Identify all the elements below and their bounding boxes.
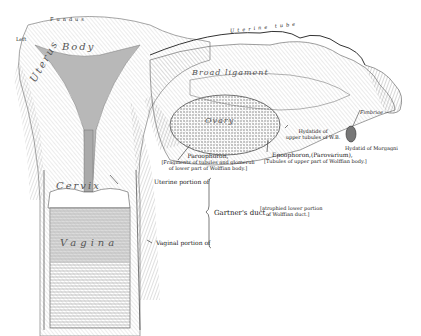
label-hydatids-wb: Hydatids of upper tubules of W.B. (283, 129, 343, 140)
label-hydatid-morgagni: Hydatid of Morgagni (345, 146, 398, 152)
paroophoron-desc-2: of lower part of Wolffian body.] (158, 165, 258, 171)
label-uterine-portion: Uterine portion of (154, 179, 209, 185)
label-paroophoron: Paroophoron, [Fragments of tubules and g… (158, 153, 258, 171)
epoophoron-desc: [Tubules of upper part of Wolffian body.… (264, 158, 367, 164)
label-gartners-desc: [atrophied lower portion of Wolffian duc… (260, 206, 322, 217)
label-epoophoron: Epoophoron,(Parovarium), [Tubules of upp… (264, 152, 367, 164)
anatomy-diagram: Fundus Left Body Uterus Cervix Vagina Ut… (0, 0, 421, 336)
label-fimbriae: Fimbriae (360, 110, 383, 116)
label-cervix: Cervix (56, 183, 101, 189)
hydatids-line-2: upper tubules of W.B. (283, 135, 343, 141)
label-left: Left (16, 37, 26, 43)
label-broad-ligament: Broad ligament (192, 70, 269, 76)
label-body: Body (62, 44, 95, 50)
label-ovary: Ovary (205, 118, 234, 124)
gartners-desc-2: of Wolffian duct.] (260, 212, 322, 218)
label-fundus: Fundus (50, 17, 87, 23)
label-vaginal-portion: Vaginal portion of (156, 240, 210, 246)
label-vagina: Vagina (60, 240, 118, 246)
